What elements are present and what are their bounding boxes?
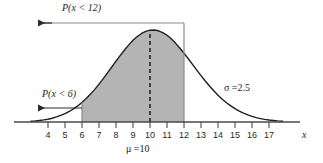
x-tick-label-6: 6 [74, 130, 90, 140]
mu-label: μ =10 [126, 143, 150, 154]
x-tick-label-7: 7 [91, 130, 107, 140]
shaded-probability-region [82, 30, 184, 122]
x-axis-ticks [48, 122, 269, 128]
x-tick-label-15: 15 [227, 130, 243, 140]
x-axis-name-label: x [302, 129, 306, 140]
x-tick-label-9: 9 [125, 130, 141, 140]
prob-upper-label: P(x < 12) [62, 2, 101, 13]
x-tick-label-5: 5 [57, 130, 73, 140]
x-tick-label-17: 17 [261, 130, 277, 140]
sigma-label: σ =2.5 [224, 82, 250, 93]
x-tick-label-12: 12 [176, 130, 192, 140]
prob-lower-label: P(x < 6) [42, 88, 76, 99]
x-tick-label-4: 4 [40, 130, 56, 140]
x-tick-label-16: 16 [244, 130, 260, 140]
x-tick-label-14: 14 [210, 130, 226, 140]
x-tick-label-13: 13 [193, 130, 209, 140]
x-tick-label-8: 8 [108, 130, 124, 140]
normal-distribution-figure: 4567891011121314151617 P(x < 12) P(x < 6… [0, 0, 323, 163]
x-tick-label-11: 11 [159, 130, 175, 140]
x-tick-label-10: 10 [142, 130, 158, 140]
